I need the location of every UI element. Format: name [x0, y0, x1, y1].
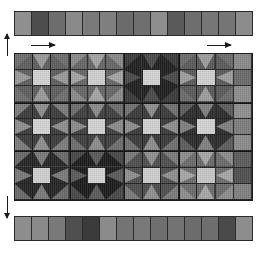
arrow-head: [4, 213, 10, 219]
block-separator-line: [15, 103, 252, 104]
quilt-cell: [70, 135, 88, 151]
bottom-strip-cell: [219, 217, 236, 240]
quilt-cell: [179, 119, 197, 135]
quilt-cell: [161, 70, 179, 86]
quilt-cell: [143, 135, 161, 151]
bottom-strip-cell: [15, 217, 32, 240]
quilt-cell: [161, 135, 179, 151]
quilt-cell: [88, 184, 106, 200]
quilt-cell: [143, 119, 161, 135]
top-border-strip: [14, 11, 253, 36]
quilt-cell: [179, 184, 197, 200]
quilt-cell: [216, 168, 234, 184]
quilt-cell: [51, 103, 69, 119]
quilt-cell: [197, 168, 215, 184]
quilt-cell: [15, 103, 33, 119]
quilt-cell: [15, 119, 33, 135]
top-strip-cell: [83, 12, 100, 35]
quilt-cell: [51, 168, 69, 184]
bottom-strip-cell: [32, 217, 49, 240]
quilt-cell: [179, 151, 197, 167]
quilt-cell: [197, 184, 215, 200]
top-strip-cell: [66, 12, 83, 35]
quilt-cell: [33, 70, 51, 86]
quilt-cell: [216, 70, 234, 86]
top-strip-cell: [32, 12, 49, 35]
quilt-cell: [124, 184, 142, 200]
quilt-cell: [161, 86, 179, 102]
quilt-cell: [179, 135, 197, 151]
quilt-cell: [88, 54, 106, 70]
quilt-cell: [143, 168, 161, 184]
block-separator-line: [179, 54, 180, 200]
bottom-strip-cell: [134, 217, 151, 240]
bottom-strip-cell: [83, 217, 100, 240]
quilt-cell: [70, 86, 88, 102]
quilt-cell: [216, 135, 234, 151]
quilt-diagram-root: [0, 0, 267, 255]
top-strip-cell: [15, 12, 32, 35]
bottom-strip-cell: [117, 217, 134, 240]
quilt-cell: [143, 54, 161, 70]
quilt-cell: [106, 135, 124, 151]
quilt-cell: [15, 54, 33, 70]
quilt-cell: [51, 70, 69, 86]
quilt-cell: [161, 168, 179, 184]
quilt-cell: [124, 168, 142, 184]
quilt-cell: [197, 135, 215, 151]
quilt-cell: [106, 168, 124, 184]
quilt-cell: [88, 151, 106, 167]
quilt-cell: [33, 168, 51, 184]
quilt-cell: [106, 54, 124, 70]
quilt-cell: [216, 54, 234, 70]
quilt-cell: [216, 103, 234, 119]
quilt-cell: [143, 151, 161, 167]
quilt-cell: [234, 135, 252, 151]
bottom-border-strip: [14, 216, 253, 241]
quilt-cell: [179, 86, 197, 102]
quilt-cell: [88, 168, 106, 184]
quilt-cell: [161, 103, 179, 119]
quilt-cell: [33, 184, 51, 200]
quilt-cell: [88, 86, 106, 102]
quilt-cell: [234, 168, 252, 184]
top-strip-cell: [219, 12, 236, 35]
quilt-cell: [124, 70, 142, 86]
quilt-cell: [143, 103, 161, 119]
quilt-cell: [88, 119, 106, 135]
quilt-cell: [106, 119, 124, 135]
quilt-cell: [161, 119, 179, 135]
quilt-grid: [15, 54, 252, 200]
top-strip-cell: [134, 12, 151, 35]
top-strip-cell: [100, 12, 117, 35]
bottom-strip-cell: [66, 217, 83, 240]
quilt-cell: [70, 54, 88, 70]
top-strip-cell: [202, 12, 219, 35]
quilt-cell: [33, 119, 51, 135]
quilt-cell: [51, 119, 69, 135]
quilt-cell: [197, 119, 215, 135]
quilt-cell: [143, 70, 161, 86]
block-separator-line: [15, 151, 252, 152]
top-strip-cell: [236, 12, 252, 35]
bottom-strip-cell: [49, 217, 66, 240]
quilt-cell: [197, 54, 215, 70]
quilt-cell: [70, 103, 88, 119]
quilt-cell: [106, 184, 124, 200]
quilt-cell: [234, 151, 252, 167]
arrow-head: [225, 42, 232, 48]
quilt-cell: [88, 70, 106, 86]
quilt-cell: [234, 70, 252, 86]
quilt-cell: [234, 184, 252, 200]
quilt-cell: [33, 103, 51, 119]
height-measure-arrow-bottom-icon: [3, 196, 12, 218]
quilt-cell: [216, 119, 234, 135]
quilt-cell: [197, 151, 215, 167]
arrow-head: [4, 33, 10, 39]
quilt-cell: [234, 103, 252, 119]
quilt-cell: [33, 151, 51, 167]
quilt-cell: [216, 184, 234, 200]
block-separator-line: [124, 54, 125, 200]
top-strip-cell: [185, 12, 202, 35]
quilt-cell: [70, 151, 88, 167]
